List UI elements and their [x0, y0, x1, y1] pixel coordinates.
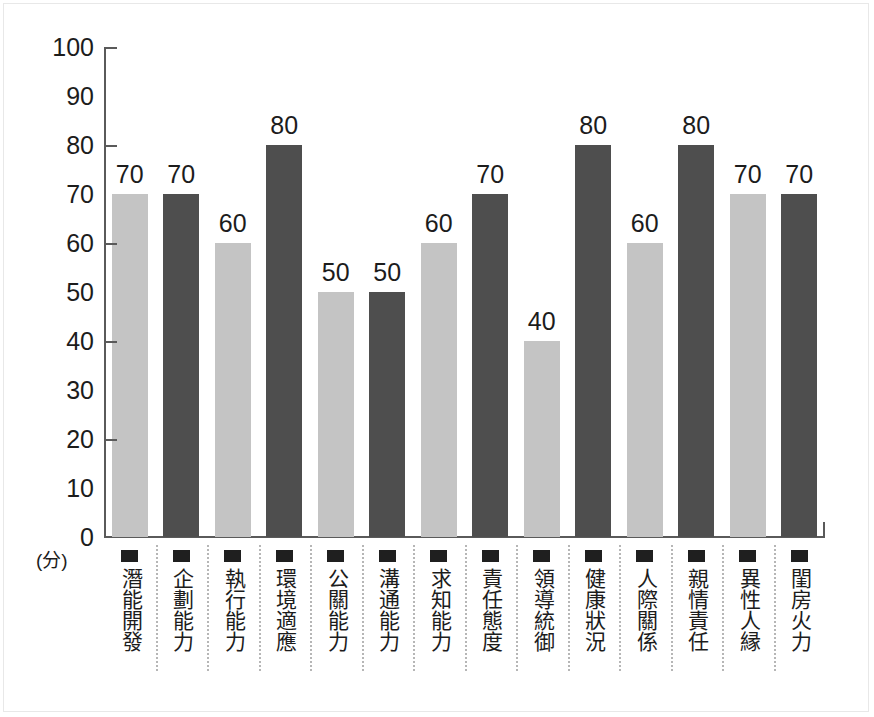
- category-separator: [465, 545, 467, 671]
- category-label: 健康狀況: [582, 568, 604, 652]
- category-separator: [774, 545, 776, 671]
- category-legend-item: 領導統御: [517, 541, 567, 652]
- category-label: 閨房火力: [788, 568, 810, 652]
- category-label: 異性人縁: [737, 568, 759, 652]
- category-legend-item: 閨房火力: [774, 541, 824, 652]
- bar-group: 70: [730, 47, 766, 537]
- bar-group: 50: [318, 47, 354, 537]
- bar-value-label: 80: [252, 113, 316, 138]
- bar: [678, 145, 714, 537]
- category-label: 親情責任: [685, 568, 707, 652]
- category-separator: [568, 545, 570, 671]
- legend-square-icon: [121, 550, 138, 562]
- bar: [318, 292, 354, 537]
- legend-square-icon: [224, 550, 241, 562]
- bar-group: 70: [163, 47, 199, 537]
- category-label: 環境適應: [273, 568, 295, 652]
- category-legend-item: 潛能開發: [105, 541, 155, 652]
- y-axis-tick-label: 80: [38, 133, 94, 158]
- category-separator: [156, 545, 158, 671]
- y-axis-tick-label: 100: [38, 35, 94, 60]
- category-label: 求知能力: [428, 568, 450, 652]
- bar-group: 70: [112, 47, 148, 537]
- bar: [112, 194, 148, 537]
- bar: [266, 145, 302, 537]
- y-axis-tick-mark: [104, 47, 117, 49]
- bar-group: 80: [678, 47, 714, 537]
- category-legend-item: 執行能力: [208, 541, 258, 652]
- y-axis-unit-label: (分): [36, 545, 68, 572]
- bar-group: 50: [369, 47, 405, 537]
- bar-value-label: 70: [458, 162, 522, 187]
- bar-value-label: 60: [613, 211, 677, 236]
- category-legend-item: 溝通能力: [362, 541, 412, 652]
- category-legend-item: 人際關係: [620, 541, 670, 652]
- category-separator: [207, 545, 209, 671]
- bar: [627, 243, 663, 537]
- bar: [575, 145, 611, 537]
- y-axis-tick-label: 50: [38, 280, 94, 305]
- bar: [369, 292, 405, 537]
- category-legend-item: 健康狀況: [568, 541, 618, 652]
- bar: [163, 194, 199, 537]
- legend-square-icon: [791, 550, 808, 562]
- legend-square-icon: [585, 550, 602, 562]
- bar-group: 60: [215, 47, 251, 537]
- bar-value-label: 60: [407, 211, 471, 236]
- bar-value-label: 50: [355, 260, 419, 285]
- bar-group: 70: [781, 47, 817, 537]
- bar: [730, 194, 766, 537]
- y-axis-tick-label: 20: [38, 427, 94, 452]
- category-legend-item: 企劃能力: [156, 541, 206, 652]
- plot-area: 7070608050506070408060807070: [104, 47, 825, 537]
- y-axis-tick-label: 40: [38, 329, 94, 354]
- legend-square-icon: [430, 550, 447, 562]
- y-axis-labels: 1009080706050403020100: [32, 0, 94, 717]
- bar-value-label: 70: [767, 162, 831, 187]
- category-separator: [259, 545, 261, 671]
- bar: [215, 243, 251, 537]
- bar: [421, 243, 457, 537]
- category-legend-item: 公關能力: [311, 541, 361, 652]
- y-axis-tick-label: 90: [38, 84, 94, 109]
- y-axis-tick-mark: [104, 439, 117, 441]
- category-label: 領導統御: [531, 568, 553, 652]
- category-separator: [310, 545, 312, 671]
- category-legend-item: 環境適應: [259, 541, 309, 652]
- category-label: 執行能力: [222, 568, 244, 652]
- legend-square-icon: [173, 550, 190, 562]
- bar-value-label: 40: [510, 309, 574, 334]
- legend-square-icon: [276, 550, 293, 562]
- y-axis-tick-label: 30: [38, 378, 94, 403]
- bar-group: 60: [421, 47, 457, 537]
- legend-square-icon: [379, 550, 396, 562]
- bar-group: 70: [472, 47, 508, 537]
- bar-value-label: 70: [149, 162, 213, 187]
- category-legend-item: 責任態度: [465, 541, 515, 652]
- bar-group: 80: [266, 47, 302, 537]
- category-legend: 潛能開發企劃能力執行能力環境適應公關能力溝通能力求知能力責任態度領導統御健康狀況…: [104, 541, 825, 673]
- category-separator: [722, 545, 724, 671]
- category-label: 公關能力: [325, 568, 347, 652]
- legend-square-icon: [482, 550, 499, 562]
- y-axis-tick-mark: [104, 243, 117, 245]
- category-label: 責任態度: [479, 568, 501, 652]
- category-legend-item: 求知能力: [414, 541, 464, 652]
- category-separator: [671, 545, 673, 671]
- legend-square-icon: [327, 550, 344, 562]
- category-legend-item: 異性人縁: [723, 541, 773, 652]
- y-axis-tick-label: 70: [38, 182, 94, 207]
- category-legend-item: 親情責任: [671, 541, 721, 652]
- legend-square-icon: [636, 550, 653, 562]
- category-separator: [413, 545, 415, 671]
- y-axis-tick-mark: [104, 341, 117, 343]
- bar-chart-screenshot: 1009080706050403020100 (分) 7070608050506…: [0, 0, 874, 717]
- bar-group: 40: [524, 47, 560, 537]
- category-separator: [362, 545, 364, 671]
- bar-value-label: 80: [561, 113, 625, 138]
- y-axis-tick-label: 10: [38, 476, 94, 501]
- bar-group: 80: [575, 47, 611, 537]
- legend-square-icon: [533, 550, 550, 562]
- bar: [524, 341, 560, 537]
- legend-square-icon: [739, 550, 756, 562]
